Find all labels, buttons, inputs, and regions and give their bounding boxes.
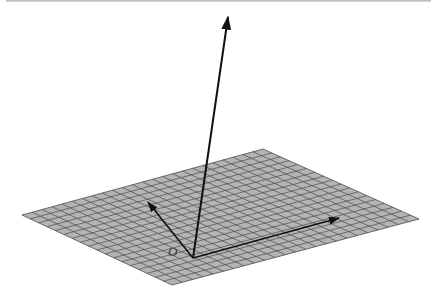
plane (22, 149, 419, 285)
origin-label: O (168, 244, 177, 260)
diagram-canvas (0, 0, 437, 299)
